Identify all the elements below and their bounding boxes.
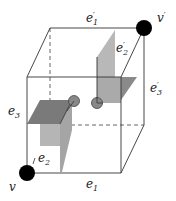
label-e3: e3 [8, 104, 20, 120]
label-e3-prime: e′3 [150, 80, 162, 97]
cube-diagram: e′1 v′ e′2 e′3 e3 e2 e1 v [0, 0, 176, 201]
label-e2-prime: e′2 [116, 40, 128, 57]
label-v-prime: v′ [157, 10, 166, 25]
label-e2: e2 [38, 151, 50, 167]
vertex-v-prime [136, 20, 152, 36]
label-e1-prime: e′1 [86, 10, 98, 27]
label-v: v [9, 180, 16, 194]
label-e1: e1 [86, 177, 98, 193]
flag-e3-prime [121, 77, 137, 100]
vertex-v [19, 165, 35, 181]
